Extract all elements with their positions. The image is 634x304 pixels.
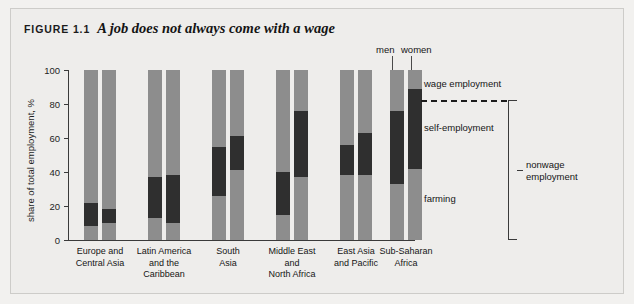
bar-segment-self-employment <box>102 209 116 223</box>
x-category-label-line: North Africa <box>252 269 332 281</box>
y-tick-label: 0 <box>36 236 60 246</box>
bar-men <box>340 70 354 240</box>
nonwage-bracket <box>508 100 517 240</box>
bar-women <box>358 70 372 240</box>
figure-page: FIGURE 1.1A job does not always come wit… <box>0 0 634 304</box>
annotation-wage-employment: wage employment <box>424 78 501 90</box>
annotation-nonwage-line1: nonwage <box>526 159 565 171</box>
bar-segment-self-employment <box>340 145 354 176</box>
y-axis-line <box>68 70 69 241</box>
annotation-nonwage-line2: employment <box>526 171 578 183</box>
y-tick-mark <box>64 104 68 105</box>
y-tick-mark <box>64 240 68 241</box>
y-tick-mark <box>64 172 68 173</box>
bar-segment-self-employment <box>276 172 290 215</box>
callout-men-leader-line <box>392 56 393 70</box>
y-tick-label: 80 <box>36 100 60 110</box>
bar-women <box>294 70 308 240</box>
y-tick-label: 100 <box>36 66 60 76</box>
y-tick-label: 20 <box>36 202 60 212</box>
x-category-label-line: Sub-Saharan <box>366 246 446 258</box>
annotation-self-employment: self-employment <box>424 122 494 134</box>
y-tick-mark <box>64 206 68 207</box>
y-axis-title: share of total employment, % <box>25 86 36 236</box>
y-tick-label: 40 <box>36 168 60 178</box>
bar-men <box>148 70 162 240</box>
chart-plot-area: share of total employment, % 02040608010… <box>0 0 614 286</box>
bar-men <box>276 70 290 240</box>
callout-men-label: men <box>376 44 394 55</box>
bar-segment-self-employment <box>230 136 244 170</box>
bar-women <box>230 70 244 240</box>
bar-women <box>166 70 180 240</box>
y-tick-label: 60 <box>36 134 60 144</box>
callout-women-leader-line <box>411 56 412 70</box>
bar-women <box>102 70 116 240</box>
bar-segment-self-employment <box>84 203 98 227</box>
x-category-label-line: Caribbean <box>124 269 204 281</box>
bar-men <box>84 70 98 240</box>
callout-women-label: women <box>401 44 432 55</box>
bar-men <box>390 70 404 240</box>
x-category-label-line: Africa <box>366 258 446 270</box>
x-axis-line <box>68 240 415 241</box>
bar-segment-self-employment <box>166 175 180 223</box>
bar-segment-self-employment <box>358 133 372 176</box>
x-category-label: Sub-SaharanAfrica <box>366 246 446 269</box>
nonwage-bracket-nub <box>517 170 523 171</box>
bar-segment-self-employment <box>294 111 308 177</box>
bar-segment-self-employment <box>212 147 226 196</box>
bar-men <box>212 70 226 240</box>
y-tick-mark <box>64 138 68 139</box>
bar-segment-self-employment <box>390 111 404 184</box>
annotation-farming: farming <box>424 193 456 205</box>
bar-women <box>408 70 422 240</box>
dashed-divider <box>421 100 507 102</box>
bar-segment-self-employment <box>148 177 162 218</box>
y-tick-mark <box>64 70 68 71</box>
bar-segment-self-employment <box>408 89 422 169</box>
